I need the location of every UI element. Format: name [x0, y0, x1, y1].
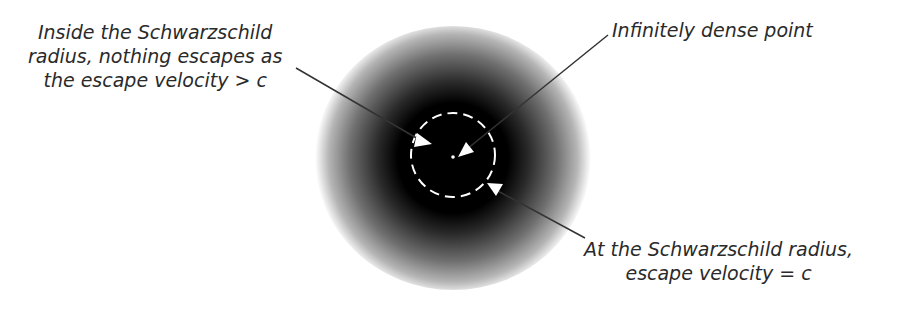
- label-radius-line1: At the Schwarzschild radius,: [584, 237, 853, 261]
- label-point-line1: Infinitely dense point: [612, 18, 813, 42]
- label-inside-line3: the escape velocity > c: [28, 68, 282, 92]
- label-inside-line2: radius, nothing escapes as: [28, 44, 282, 68]
- label-inside-radius: Inside the Schwarzschild radius, nothing…: [28, 20, 282, 92]
- black-hole-diagram: Inside the Schwarzschild radius, nothing…: [0, 0, 906, 311]
- singularity-point: [451, 155, 455, 159]
- label-inside-line1: Inside the Schwarzschild: [28, 20, 282, 44]
- label-radius-line2: escape velocity = c: [584, 261, 853, 285]
- label-at-radius: At the Schwarzschild radius, escape velo…: [584, 237, 853, 285]
- label-dense-point: Infinitely dense point: [612, 18, 813, 42]
